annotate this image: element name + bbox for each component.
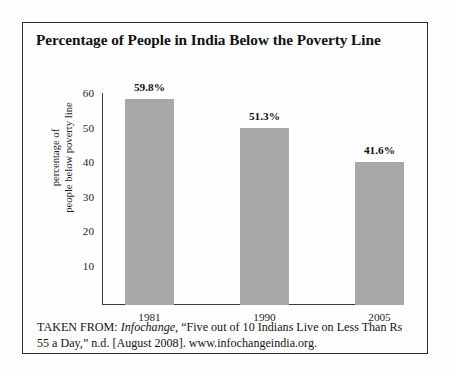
bar-2005 — [355, 162, 404, 306]
chart-title: Percentage of People in India Below the … — [36, 31, 421, 49]
y-tick-label-10: 10 — [54, 261, 94, 272]
y-tick-label-50: 50 — [54, 123, 94, 134]
citation-prefix: TAKEN FROM: — [37, 320, 121, 334]
y-tick-label-20: 20 — [54, 226, 94, 237]
bar-value-2005: 41.6% — [355, 144, 404, 156]
y-tick-label-40: 40 — [54, 157, 94, 168]
bar-1981 — [125, 99, 174, 305]
source-citation: TAKEN FROM: Infochange, “Five out of 10 … — [37, 319, 417, 351]
bar-1990 — [240, 128, 289, 305]
citation-source-name: Infochange — [121, 320, 175, 334]
y-axis-line — [102, 93, 103, 305]
y-tick-label-30: 30 — [54, 192, 94, 203]
bar-chart-plot: percentage of people below poverty line … — [36, 61, 416, 311]
y-tick-label-60: 60 — [54, 88, 94, 99]
figure-frame: Percentage of People in India Below the … — [22, 22, 428, 354]
bar-value-1981: 59.8% — [125, 81, 174, 93]
bar-value-1990: 51.3% — [240, 110, 289, 122]
